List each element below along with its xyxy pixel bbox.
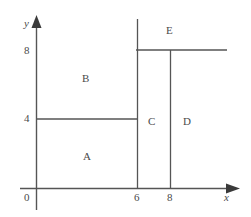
region-label-a: A	[83, 151, 91, 162]
region-label-e: E	[166, 25, 173, 36]
region-label-d: D	[183, 116, 191, 127]
diagram-canvas	[0, 0, 251, 217]
y-tick-label-4: 4	[24, 113, 30, 124]
y-axis-label: y	[24, 18, 29, 29]
x-axis-label: x	[224, 192, 229, 203]
coordinate-diagram: y x 8 4 0 6 8 A B C D E	[0, 0, 251, 217]
y-tick-label-8: 8	[24, 45, 30, 56]
x-tick-label-8: 8	[167, 192, 173, 203]
origin-label: 0	[24, 192, 30, 203]
x-tick-label-6: 6	[134, 192, 140, 203]
region-label-c: C	[148, 116, 155, 127]
y-axis-arrowhead	[32, 15, 42, 28]
region-label-b: B	[82, 73, 89, 84]
